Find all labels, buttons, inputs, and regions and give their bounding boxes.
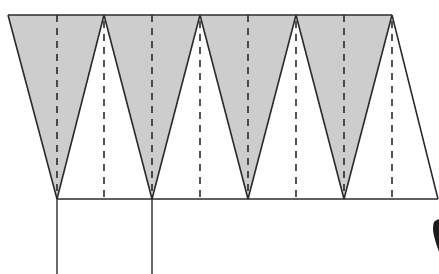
lower-vertical-lines (57, 199, 152, 274)
shaded-triangle (8, 15, 104, 199)
folded-triangles-diagram (0, 0, 439, 274)
shaded-triangles (8, 15, 392, 199)
right-slant-edge-line (392, 15, 438, 199)
dark-blob-shape (433, 219, 439, 252)
